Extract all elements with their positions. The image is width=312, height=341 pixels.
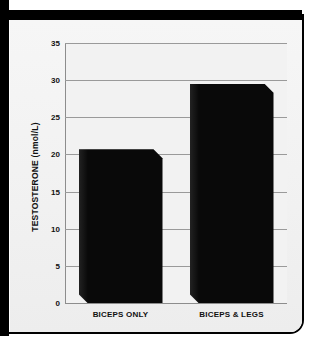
y-tick-label-20: 20 bbox=[51, 150, 60, 159]
plot-area: 05101520253035 bbox=[65, 43, 287, 303]
y-tick-label-35: 35 bbox=[51, 39, 60, 48]
y-tick-label-5: 5 bbox=[56, 261, 60, 270]
bar-chart: TESTOSTERONE (nmol/L) 05101520253035 BIC… bbox=[10, 20, 302, 332]
bar bbox=[79, 149, 163, 303]
y-axis-title: TESTOSTERONE (nmol/L) bbox=[30, 82, 40, 272]
bar bbox=[190, 84, 274, 303]
x-axis-label: BICEPS & LEGS bbox=[176, 310, 287, 319]
y-tick-label-0: 0 bbox=[56, 299, 60, 308]
y-tick-label-30: 30 bbox=[51, 76, 60, 85]
bar-highlight bbox=[190, 84, 199, 303]
y-tick-label-15: 15 bbox=[51, 187, 60, 196]
y-tick-label-25: 25 bbox=[51, 113, 60, 122]
x-axis-label: BICEPS ONLY bbox=[65, 310, 176, 319]
gridline-35: 35 bbox=[65, 43, 287, 44]
gridline-0: 0 bbox=[65, 303, 287, 304]
y-tick-label-10: 10 bbox=[51, 224, 60, 233]
gridline-30: 30 bbox=[65, 80, 287, 81]
bar-highlight bbox=[79, 149, 88, 303]
chart-page: TESTOSTERONE (nmol/L) 05101520253035 BIC… bbox=[0, 0, 312, 341]
